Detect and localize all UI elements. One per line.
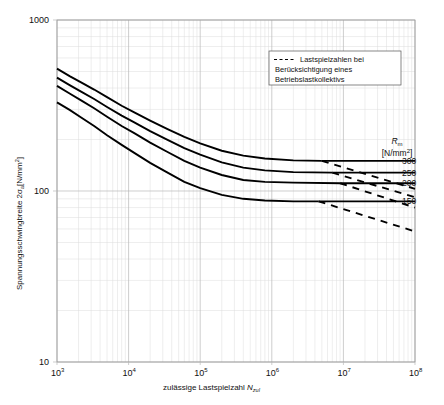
x-axis-title-text: zulässige Lastspielzahl Nzul (163, 383, 261, 393)
right-axis-value-labels: 300250200150 (402, 156, 416, 206)
y-tick-100: 100 (34, 186, 49, 196)
legend-label-line-3: Betriebslastkollektivs (275, 75, 345, 84)
y-axis-title-text: Spannungsschwingbreite 2σa[N/mm2] (14, 157, 25, 290)
right-axis-value-200: 200 (402, 178, 416, 188)
fatigue-chart: 103104105106107108 101001000 Spannungssc… (0, 0, 444, 405)
y-axis-title-main: Spannungsschwingbreite 2 (15, 193, 24, 290)
y-axis-title: Spannungsschwingbreite 2σa[N/mm2] (14, 157, 25, 290)
right-axis-value-150: 150 (402, 196, 416, 206)
right-axis-value-300: 300 (402, 156, 416, 166)
y-tick-1000: 1000 (29, 15, 49, 25)
y-tick-10: 10 (39, 357, 49, 367)
legend-label-line-1: Lastspielzahlen bei (300, 55, 364, 64)
chart-legend: Lastspielzahlen bei Berücksichtigung ein… (269, 51, 401, 85)
right-axis-value-250: 250 (402, 168, 416, 178)
legend-label-line-2: Berücksichtigung eines (275, 65, 352, 74)
x-axis-title: zulässige Lastspielzahl Nzul (163, 383, 261, 393)
chart-canvas: 103104105106107108 101001000 Spannungssc… (0, 0, 444, 405)
